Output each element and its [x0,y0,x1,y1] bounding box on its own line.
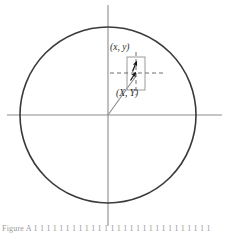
caption-strip: Figure A 1 1 1 1 1 1 1 1 1 1 1 1 1 1 1 1… [0,224,228,234]
figure-container: (x, y) (X, Y) Figure A 1 1 1 1 1 1 1 1 1… [0,0,228,234]
label-point-lowercase: (x, y) [110,43,130,53]
geometry-diagram [0,0,228,234]
figure-caption: Figure A 1 1 1 1 1 1 1 1 1 1 1 1 1 1 1 1… [2,224,211,233]
label-point-uppercase: (X, Y) [116,89,138,99]
